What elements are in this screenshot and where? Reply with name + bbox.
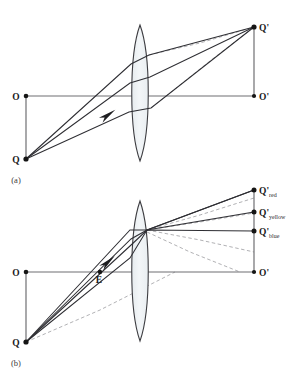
point-label-O-prime-b: O' (259, 268, 269, 278)
point-subscript-yellow: yellow (269, 214, 286, 220)
point-label-Q: Q (12, 155, 19, 165)
point-label-E: E (96, 275, 102, 285)
point-E-dot (98, 270, 102, 274)
canvas-background (0, 0, 301, 376)
figure-root: O Q O' Q' (a) (0, 0, 301, 376)
point-label-Q-prime-red: Q' (259, 186, 269, 196)
point-label-Q-prime: Q' (259, 23, 269, 33)
point-Q-prime-yellow-dot (252, 210, 257, 215)
point-Q-prime-blue-dot (252, 229, 257, 234)
point-label-O: O (12, 92, 19, 102)
lens-aberration-diagram: O Q O' Q' (a) (0, 0, 301, 376)
point-O-prime-dot (252, 94, 256, 98)
panel-a-caption: (a) (11, 175, 21, 185)
point-O-dot-b (24, 270, 29, 275)
point-O-dot (24, 94, 29, 99)
point-Q-prime-red-dot (252, 188, 257, 193)
point-Q-dot (23, 156, 28, 161)
point-label-O-b: O (12, 268, 19, 278)
point-label-O-prime: O' (259, 92, 269, 102)
point-label-Q-b: Q (12, 338, 19, 348)
point-O-prime-dot-b (252, 270, 256, 274)
point-Q-dot-b (23, 339, 28, 344)
point-subscript-blue: blue (269, 233, 280, 239)
point-label-Q-prime-yellow: Q' (259, 208, 269, 218)
point-label-Q-prime-blue: Q' (259, 227, 269, 237)
point-subscript-red: red (269, 192, 277, 198)
point-Q-prime-dot (251, 24, 256, 29)
panel-b-caption: (b) (11, 358, 21, 368)
